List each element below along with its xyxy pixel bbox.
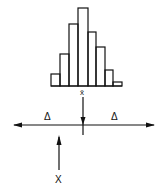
histogram-bar bbox=[60, 54, 69, 86]
observation-arrow-head bbox=[57, 135, 62, 145]
delta-left-label: Δ bbox=[44, 111, 51, 122]
mean-label: x̄ bbox=[80, 88, 84, 97]
interval-diagram: x̄ Δ Δ X bbox=[0, 0, 162, 195]
histogram-bar bbox=[78, 8, 88, 86]
histogram-bar bbox=[51, 74, 60, 86]
histogram-bar bbox=[96, 47, 105, 86]
left-arrow-head bbox=[13, 123, 22, 128]
histogram-bar bbox=[88, 32, 96, 86]
observation-label: X bbox=[55, 174, 62, 185]
mean-arrow-head bbox=[81, 117, 86, 125]
histogram-bar bbox=[105, 70, 113, 86]
histogram bbox=[51, 8, 122, 86]
right-arrow-head bbox=[146, 123, 155, 128]
histogram-bar bbox=[69, 24, 78, 86]
delta-right-label: Δ bbox=[111, 111, 118, 122]
